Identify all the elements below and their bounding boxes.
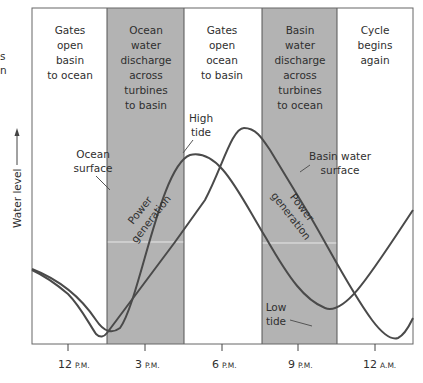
cutoff-text: s xyxy=(0,50,5,62)
tidal-cycle-diagram: 12P.M. 3P.M. 6P.M. 9P.M. 12A.M. Gates op… xyxy=(0,0,423,383)
svg-text:Water level: Water level xyxy=(11,169,23,228)
arrow-up-icon xyxy=(15,128,20,136)
svg-text:open: open xyxy=(209,39,235,51)
svg-text:water: water xyxy=(131,39,162,51)
svg-text:Basin water: Basin water xyxy=(309,150,372,162)
svg-text:surface: surface xyxy=(74,162,113,174)
svg-text:to basin: to basin xyxy=(125,99,167,111)
svg-text:begins: begins xyxy=(358,39,393,51)
x-tick-label: 12A.M. xyxy=(363,358,396,371)
svg-text:Low: Low xyxy=(266,301,287,313)
svg-text:surface: surface xyxy=(321,164,360,176)
phase-label-3: Gates open ocean to basin xyxy=(201,24,243,81)
svg-text:ocean: ocean xyxy=(206,54,238,66)
x-tick-label: 3P.M. xyxy=(135,358,160,371)
svg-text:again: again xyxy=(360,54,389,66)
svg-text:discharge: discharge xyxy=(120,54,171,66)
svg-text:to ocean: to ocean xyxy=(277,99,323,111)
phase-label-5: Cycle begins again xyxy=(358,24,393,66)
svg-text:Basin: Basin xyxy=(286,24,315,36)
svg-text:turbines: turbines xyxy=(124,84,167,96)
svg-text:Gates: Gates xyxy=(55,24,86,36)
x-tick-label: 9P.M. xyxy=(288,358,313,371)
cutoff-text: n xyxy=(0,64,7,76)
svg-text:across: across xyxy=(129,69,163,81)
svg-text:discharge: discharge xyxy=(274,54,325,66)
svg-text:water: water xyxy=(285,39,316,51)
svg-text:Cycle: Cycle xyxy=(361,24,390,36)
svg-text:across: across xyxy=(283,69,317,81)
x-tick-label: 6P.M. xyxy=(212,358,237,371)
svg-text:to basin: to basin xyxy=(201,69,243,81)
svg-text:High: High xyxy=(189,112,213,124)
svg-text:Gates: Gates xyxy=(207,24,238,36)
svg-text:tide: tide xyxy=(266,315,286,327)
svg-text:basin: basin xyxy=(56,54,84,66)
svg-text:to ocean: to ocean xyxy=(47,69,93,81)
svg-text:Ocean: Ocean xyxy=(76,148,110,160)
svg-text:Ocean: Ocean xyxy=(129,24,163,36)
svg-text:open: open xyxy=(57,39,83,51)
high-tide-label: High tide xyxy=(183,112,213,153)
y-axis-label: Water level xyxy=(11,128,23,228)
svg-text:tide: tide xyxy=(191,126,211,138)
x-tick-label: 12P.M. xyxy=(58,358,90,371)
svg-text:turbines: turbines xyxy=(278,84,321,96)
phase-label-1: Gates open basin to ocean xyxy=(47,24,93,81)
ocean-surface-curve xyxy=(32,154,413,331)
